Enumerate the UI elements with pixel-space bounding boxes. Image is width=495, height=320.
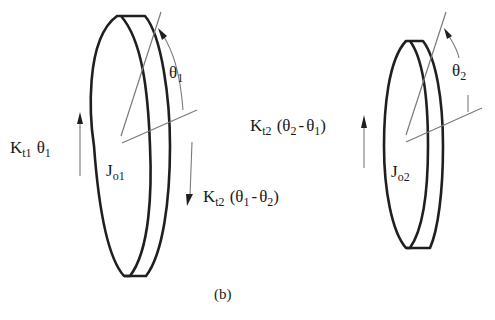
theta-b-subscript: 2 (267, 195, 273, 209)
torque-label-kt1: Kt1θ1 (10, 139, 51, 156)
torque-arrow-kt1-head (77, 112, 83, 124)
j-subscript: o1 (113, 169, 125, 183)
k-symbol: K (250, 116, 262, 135)
torsional-system-diagram: θ1 Kt1θ1 Jo1 Kt2(θ1-θ2) Kt2(θ2-θ1) θ2 Jo… (0, 0, 495, 320)
torque-arrow-kt2-down-head (186, 194, 193, 206)
j-symbol: J (391, 162, 398, 181)
theta-symbol: θ (169, 63, 177, 82)
torque-arrow-kt2-down-shaft (190, 142, 192, 196)
close-paren: ) (320, 116, 326, 135)
torque-label-kt2-disk1: Kt2(θ1-θ2) (203, 188, 279, 205)
disk-2-angle-arrowhead (444, 28, 452, 39)
theta-a-subscript: 1 (243, 195, 249, 209)
disk-2-inertia-label: Jo2 (391, 163, 410, 180)
disk-1-angle-line (121, 12, 161, 136)
theta-subscript: 1 (45, 146, 51, 160)
k-subscript: t1 (22, 146, 31, 160)
theta-b-subscript: 1 (314, 124, 320, 138)
theta-subscript: 2 (460, 69, 466, 83)
minus-sign: - (249, 187, 259, 206)
torque-label-kt2-disk2: Kt2(θ2-θ1) (250, 117, 326, 134)
minus-sign: - (296, 116, 306, 135)
torque-arrow-kt2-up-head (361, 115, 367, 128)
j-subscript: o2 (398, 170, 410, 184)
disk-2-front-face (384, 41, 428, 248)
figure-caption: (b) (214, 287, 232, 302)
disk-2-angle-line (406, 12, 446, 135)
disk-2-rim (406, 41, 443, 248)
theta-symbol: θ (452, 61, 460, 80)
k-subscript: t2 (215, 195, 224, 209)
disk-2 (384, 41, 443, 248)
k-subscript: t2 (262, 124, 271, 138)
j-symbol: J (106, 161, 113, 180)
disk-1 (91, 16, 170, 276)
theta-symbol: θ (37, 138, 45, 157)
disk-1-front-face (91, 16, 151, 276)
disk-1-inertia-label: Jo1 (106, 162, 125, 179)
close-paren: ) (273, 187, 279, 206)
disk-1-angle-arrowhead (158, 28, 167, 40)
k-symbol: K (10, 138, 22, 157)
disk-2-angle-arc (449, 36, 459, 58)
theta-a-subscript: 2 (290, 124, 296, 138)
k-symbol: K (203, 187, 215, 206)
theta-subscript: 1 (177, 71, 183, 85)
disk-1-reference-line (122, 110, 197, 143)
disk-2-angle-label: θ2 (452, 62, 466, 79)
disk-1-angle-label: θ1 (169, 64, 183, 81)
diagram-graphics (0, 0, 495, 320)
